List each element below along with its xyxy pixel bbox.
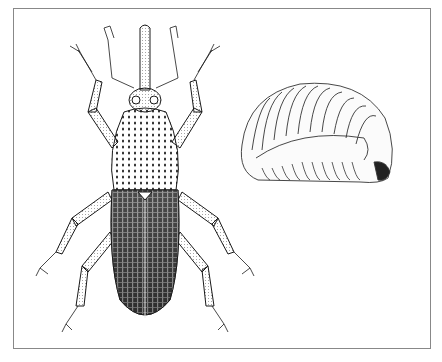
weevil-illustration <box>0 0 442 362</box>
weevil <box>36 25 254 332</box>
weevil-rostrum <box>140 25 150 90</box>
larva <box>241 83 392 182</box>
weevil-pronotum <box>112 108 179 190</box>
